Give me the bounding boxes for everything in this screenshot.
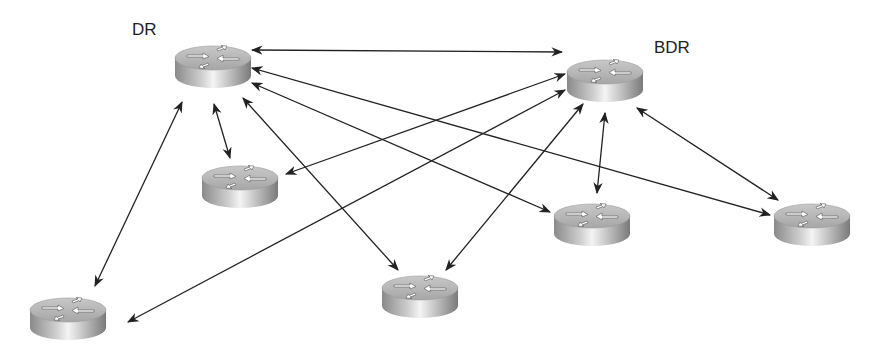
router-icon bbox=[774, 204, 850, 247]
router-icon bbox=[554, 204, 630, 247]
router-icon bbox=[30, 298, 106, 341]
router-dr bbox=[175, 46, 251, 89]
link-dr-r4 bbox=[252, 83, 550, 212]
router-icon bbox=[175, 46, 251, 89]
router-drother-1 bbox=[202, 166, 278, 209]
router-icon bbox=[382, 276, 458, 319]
link-bdr-r4 bbox=[597, 113, 605, 193]
link-dr-r1 bbox=[214, 104, 230, 158]
link-dr-r5 bbox=[252, 68, 770, 215]
link-dr-r2 bbox=[95, 102, 182, 286]
router-drother-3 bbox=[382, 276, 458, 319]
link-bdr-r5 bbox=[637, 108, 778, 200]
router-icon bbox=[202, 166, 278, 209]
router-drother-2 bbox=[30, 298, 106, 341]
router-drother-5 bbox=[774, 204, 850, 247]
router-icon bbox=[567, 60, 643, 103]
link-dr-bdr bbox=[252, 50, 562, 52]
router-drother-4 bbox=[554, 204, 630, 247]
ospf-dr-bdr-diagram bbox=[0, 0, 883, 355]
bdr-label: BDR bbox=[654, 38, 690, 58]
dr-label: DR bbox=[132, 20, 157, 40]
router-bdr bbox=[567, 60, 643, 103]
